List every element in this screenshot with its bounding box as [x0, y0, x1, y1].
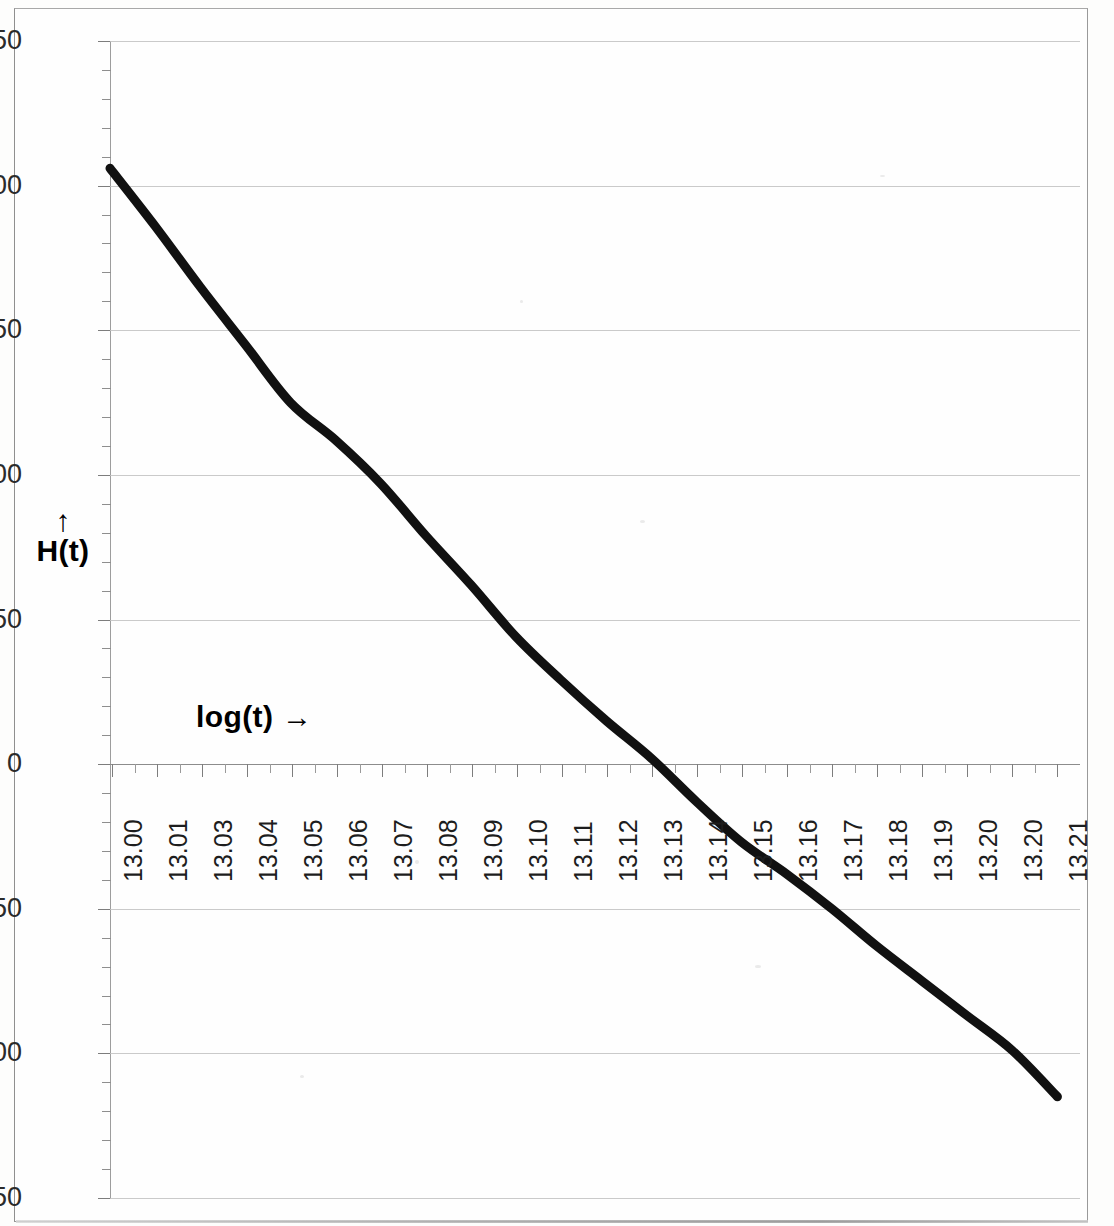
x-tick-label: 13.03 — [211, 820, 236, 883]
y-tick-label: -50 — [0, 895, 22, 922]
x-tick-label: 13.14 — [706, 820, 731, 883]
scan-speck — [755, 965, 761, 968]
y-tick-label: 200 — [0, 172, 22, 199]
gridline-y--150 — [110, 1198, 1080, 1199]
y-axis-title: ↑ H(t) — [24, 508, 102, 568]
x-tick-label: 13.09 — [481, 820, 506, 883]
y-tick-label: 250 — [0, 27, 22, 54]
x-tick-label: 13.20 — [976, 820, 1001, 883]
y-axis-title-text: H(t) — [24, 534, 102, 568]
up-arrow-icon: ↑ — [24, 508, 102, 534]
scan-edge-artifact — [16, 1220, 1088, 1223]
x-tick-label: 13.12 — [616, 820, 641, 883]
scan-speck — [300, 1075, 304, 1078]
y-tick-label: 50 — [0, 606, 22, 633]
x-tick-label: 13.04 — [256, 820, 281, 883]
x-tick-label: 13.21 — [1066, 820, 1091, 883]
series-H-of-t — [110, 168, 1057, 1096]
y-tick-label: -100 — [0, 1039, 22, 1066]
x-tick-label: 13.15 — [751, 820, 776, 883]
x-tick-label: 13.08 — [436, 820, 461, 883]
data-curve — [110, 41, 1080, 1198]
scan-speck — [640, 520, 645, 523]
y-tick-label: -150 — [0, 1184, 22, 1211]
scan-speck — [520, 300, 523, 303]
x-tick-label: 13.20 — [1021, 820, 1046, 883]
x-tick-label: 13.06 — [346, 820, 371, 883]
scan-speck — [415, 860, 419, 864]
x-tick-label: 13.01 — [166, 820, 191, 883]
plot-area — [110, 41, 1080, 1198]
x-tick-label: 13.05 — [301, 820, 326, 883]
chart-page: 250200150100500-50-100-150 ↑ H(t) log(t)… — [0, 0, 1114, 1226]
x-tick-label: 13.13 — [661, 820, 686, 883]
x-tick-label: 13.17 — [841, 820, 866, 883]
y-tick-label: 150 — [0, 316, 22, 343]
scan-speck — [880, 175, 885, 177]
x-tick-label: 13.18 — [886, 820, 911, 883]
x-tick-label: 13.16 — [796, 820, 821, 883]
x-tick-label: 13.07 — [391, 820, 416, 883]
y-tick-label: 100 — [0, 461, 22, 488]
x-tick-label: 13.19 — [931, 820, 956, 883]
y-tick-label: 0 — [7, 750, 22, 777]
x-tick-label: 13.11 — [571, 821, 596, 882]
x-tick-label: 13.10 — [526, 820, 551, 883]
x-tick-label: 13.00 — [121, 820, 146, 883]
